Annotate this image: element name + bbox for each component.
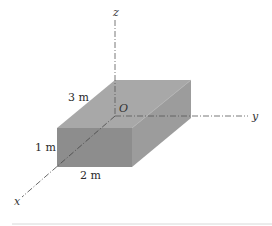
origin-label: O (119, 102, 128, 115)
y-axis-label: y (251, 110, 259, 123)
width-label: 2 m (80, 169, 101, 182)
z-axis-label: z (112, 6, 119, 19)
height-label: 1 m (35, 141, 56, 154)
x-axis-label: x (14, 195, 21, 208)
box-diagram: z y x O 3 m 1 m 2 m (0, 0, 272, 226)
length-label: 3 m (68, 91, 89, 104)
